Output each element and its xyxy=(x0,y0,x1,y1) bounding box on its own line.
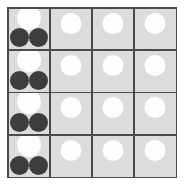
grid-cell[interactable] xyxy=(9,136,50,177)
grid-cell[interactable] xyxy=(93,136,134,177)
grid-cell[interactable] xyxy=(135,93,176,134)
grid-cell[interactable] xyxy=(51,93,92,134)
figure-canvas xyxy=(0,0,184,186)
dark-token[interactable] xyxy=(10,113,29,132)
grid-cell[interactable] xyxy=(51,136,92,177)
grid-cell[interactable] xyxy=(93,93,134,134)
grid-cell[interactable] xyxy=(93,51,134,92)
dark-token[interactable] xyxy=(29,28,48,47)
dark-token[interactable] xyxy=(29,156,48,175)
dark-token[interactable] xyxy=(29,71,48,90)
white-token-large[interactable] xyxy=(17,93,41,114)
white-token-small[interactable] xyxy=(103,55,124,76)
dark-token[interactable] xyxy=(29,113,48,132)
white-token-small[interactable] xyxy=(145,140,166,161)
white-token-small[interactable] xyxy=(103,97,124,118)
white-token-small[interactable] xyxy=(60,97,81,118)
white-token-small[interactable] xyxy=(60,13,81,34)
dark-token[interactable] xyxy=(10,28,29,47)
white-token-large[interactable] xyxy=(17,136,41,157)
grid-cell[interactable] xyxy=(9,9,50,50)
white-token-large[interactable] xyxy=(17,51,41,72)
white-token-large[interactable] xyxy=(17,9,41,30)
grid-cell[interactable] xyxy=(51,9,92,50)
white-token-small[interactable] xyxy=(145,55,166,76)
grid-cell[interactable] xyxy=(51,51,92,92)
dark-token[interactable] xyxy=(10,156,29,175)
grid-cell[interactable] xyxy=(135,136,176,177)
white-token-small[interactable] xyxy=(145,13,166,34)
white-token-small[interactable] xyxy=(60,140,81,161)
white-token-small[interactable] xyxy=(103,140,124,161)
token-grid xyxy=(7,7,177,178)
white-token-small[interactable] xyxy=(103,13,124,34)
grid-cell[interactable] xyxy=(135,9,176,50)
grid-cell[interactable] xyxy=(9,93,50,134)
grid-cell[interactable] xyxy=(135,51,176,92)
grid-cell[interactable] xyxy=(93,9,134,50)
white-token-small[interactable] xyxy=(145,97,166,118)
white-token-small[interactable] xyxy=(60,55,81,76)
grid-cell[interactable] xyxy=(9,51,50,92)
dark-token[interactable] xyxy=(10,71,29,90)
